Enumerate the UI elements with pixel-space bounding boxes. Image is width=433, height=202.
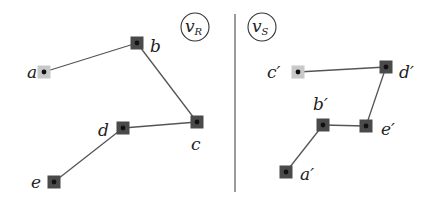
node-dot-icon [384,65,389,70]
node-label: b′ [313,94,328,114]
node-dot-icon [135,41,140,46]
node-label: e [31,172,41,192]
nodes-layer [38,37,393,189]
edge-c'-d' [298,67,386,72]
badge-vR: vR [181,13,209,41]
node-label: c′ [267,62,281,82]
node-c' [292,66,305,79]
badge-vS: vS [248,13,276,41]
edges-layer [44,43,386,182]
badge-label: vS [252,16,269,37]
graph-diagram: abcdec′d′b′e′a′ vRvS [0,0,433,202]
node-label: a′ [300,164,314,184]
node-label: d [98,120,109,140]
node-a [38,66,51,79]
node-dot-icon [195,120,200,125]
badges-layer: vRvS [181,13,276,41]
node-label: e′ [381,119,395,139]
badge-label: vR [185,16,203,37]
node-d' [380,61,393,74]
node-d [117,122,130,135]
edge-c-d [123,122,197,128]
node-label: a [27,62,37,82]
node-dot-icon [321,123,326,128]
node-label: b [150,36,161,56]
edge-a-b [44,43,137,72]
node-c [191,116,204,129]
node-dot-icon [121,126,126,131]
edge-d-e [54,128,123,182]
node-e [48,176,61,189]
node-dot-icon [52,180,57,185]
node-dot-icon [42,70,47,75]
node-dot-icon [284,170,289,175]
node-label: d′ [399,62,414,82]
edge-b-c [137,43,197,122]
node-e' [360,120,373,133]
node-a' [280,166,293,179]
edge-d'-e' [366,67,386,126]
node-label: c [191,134,201,154]
node-b' [317,119,330,132]
node-dot-icon [296,70,301,75]
node-dot-icon [364,124,369,129]
node-b [131,37,144,50]
